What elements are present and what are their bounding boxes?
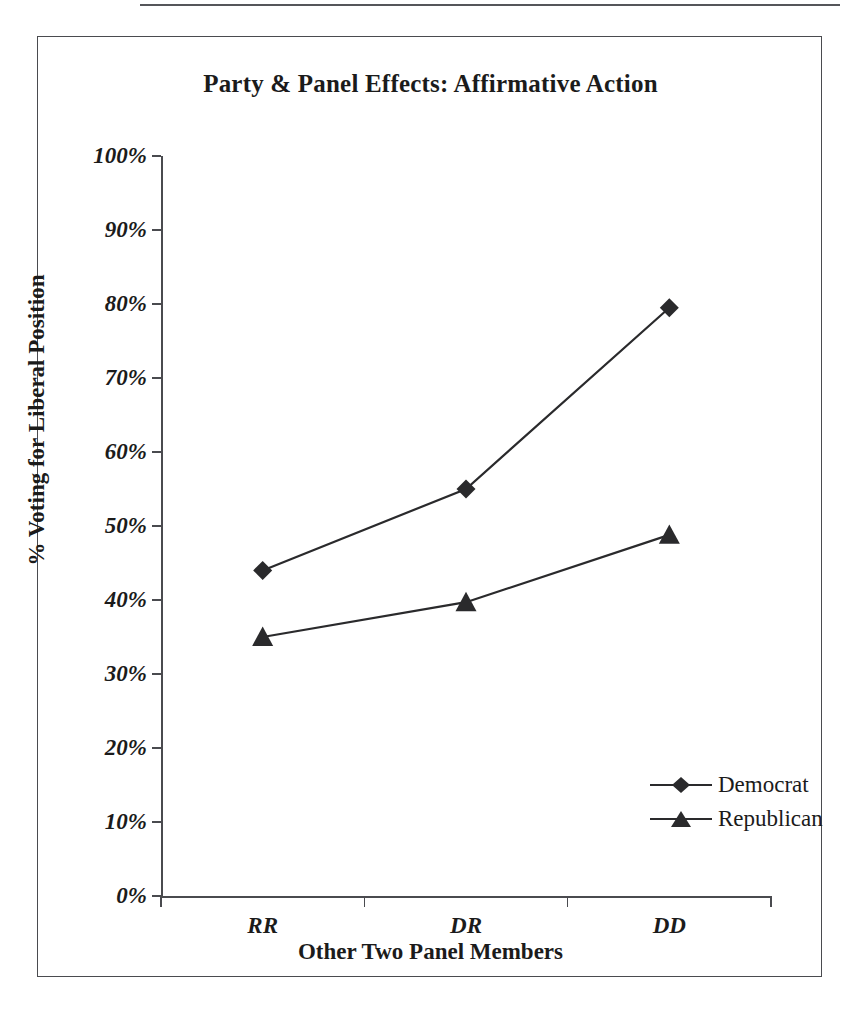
legend-item-republican: Republican — [650, 802, 856, 836]
y-tick-label: 20% — [29, 735, 147, 761]
chart-legend: Democrat Republican — [650, 768, 856, 836]
x-tick-mark — [770, 896, 771, 907]
y-tick-label: 40% — [29, 587, 147, 613]
x-axis-title: Other Two Panel Members — [38, 939, 823, 965]
y-tick-label: 10% — [29, 809, 147, 835]
figure-frame: Party & Panel Effects: Affirmative Actio… — [37, 36, 822, 977]
diamond-marker-icon — [650, 774, 712, 796]
y-tick-mark — [152, 525, 161, 526]
y-tick-label: 70% — [29, 365, 147, 391]
chart-title: Party & Panel Effects: Affirmative Actio… — [38, 70, 823, 98]
x-tick-mark — [364, 896, 365, 907]
data-point-triangle-marker — [659, 524, 680, 543]
y-tick-label: 80% — [29, 291, 147, 317]
x-axis-line — [161, 896, 771, 898]
y-tick-label: 90% — [29, 217, 147, 243]
x-category-label: DR — [450, 913, 482, 939]
data-point-diamond-marker — [253, 561, 272, 580]
x-category-label: RR — [247, 913, 278, 939]
series-line-republican — [263, 535, 670, 637]
legend-label-republican: Republican — [712, 806, 823, 832]
x-category-label: DD — [653, 913, 686, 939]
y-tick-mark — [152, 377, 161, 378]
x-tick-mark — [567, 896, 568, 907]
y-tick-label: 50% — [29, 513, 147, 539]
data-point-triangle-marker — [456, 592, 477, 611]
y-tick-mark — [152, 747, 161, 748]
y-tick-mark — [152, 303, 161, 304]
y-tick-label: 0% — [29, 883, 147, 909]
triangle-marker-icon — [650, 808, 712, 830]
series-line-democrat — [263, 308, 670, 571]
y-tick-label: 100% — [29, 143, 147, 169]
y-tick-mark — [152, 599, 161, 600]
legend-item-democrat: Democrat — [650, 768, 856, 802]
y-tick-mark — [152, 451, 161, 452]
top-horizontal-rule — [140, 4, 840, 6]
y-tick-mark — [152, 155, 161, 156]
y-tick-mark — [152, 673, 161, 674]
legend-label-democrat: Democrat — [712, 772, 809, 798]
y-tick-mark — [152, 821, 161, 822]
y-axis-title: % Voting for Liberal Position — [24, 185, 50, 655]
y-tick-mark — [152, 229, 161, 230]
y-tick-label: 30% — [29, 661, 147, 687]
x-tick-mark — [160, 896, 161, 907]
y-tick-label: 60% — [29, 439, 147, 465]
